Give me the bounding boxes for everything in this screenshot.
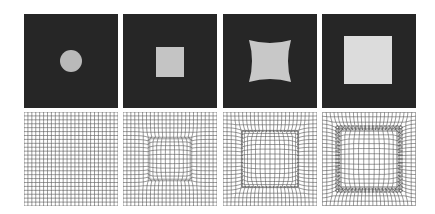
image-panel-2 [123, 14, 217, 108]
grid-lines [223, 112, 317, 206]
image-panel-3 [223, 14, 317, 108]
image-panel-4 [322, 14, 416, 108]
image-panel-1 [24, 14, 118, 108]
concave-square-shape [249, 40, 291, 82]
grid-lines [123, 112, 217, 206]
grid-lines [24, 112, 118, 206]
deformation-grid-1 [24, 112, 118, 206]
deformation-grid-2 [123, 112, 217, 206]
deformation-grid-4 [322, 112, 416, 206]
large-square-shape [344, 36, 392, 84]
circle-shape [60, 50, 82, 72]
grid-lines [322, 112, 415, 205]
small-square-shape [156, 47, 184, 77]
deformation-grid-3 [223, 112, 317, 206]
